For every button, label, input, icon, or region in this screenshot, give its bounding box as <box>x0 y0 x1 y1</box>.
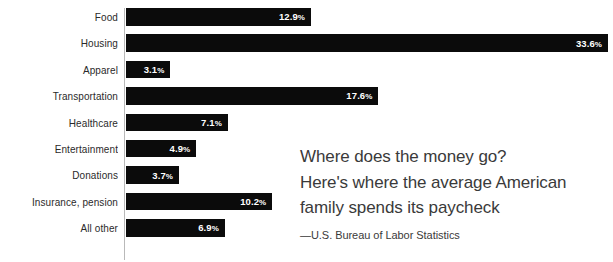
percent-sign: % <box>595 40 602 49</box>
bar-value-number: 17.6 <box>346 90 365 101</box>
bar: 33.6% <box>126 34 608 52</box>
bar-row: Transportation17.6% <box>0 87 613 113</box>
bar-track: 12.9% <box>126 8 311 26</box>
bar-value-label: 3.1% <box>144 64 171 75</box>
bar: 12.9% <box>126 8 311 26</box>
bar-value-number: 12.9 <box>279 11 298 22</box>
bar-track: 4.9% <box>126 140 196 158</box>
percent-sign: % <box>259 198 266 207</box>
category-label: Entertainment <box>0 142 118 156</box>
category-label: Insurance, pension <box>0 195 118 209</box>
category-label: Donations <box>0 168 118 182</box>
percent-sign: % <box>183 145 190 154</box>
bar-value-label: 33.6% <box>576 38 608 49</box>
percent-sign: % <box>365 92 372 101</box>
category-label: Apparel <box>0 63 118 77</box>
percent-sign: % <box>298 13 305 22</box>
headline-line: Here's where the average American <box>300 170 610 196</box>
bar-row: Housing33.6% <box>0 34 613 60</box>
bar: 4.9% <box>126 140 196 158</box>
category-label: All other <box>0 221 118 235</box>
percent-sign: % <box>212 224 219 233</box>
bar-value-label: 17.6% <box>346 90 378 101</box>
bar: 6.9% <box>126 219 225 237</box>
bar-row: Healthcare7.1% <box>0 114 613 140</box>
bar-value-label: 7.1% <box>201 117 228 128</box>
bar-value-number: 3.7 <box>152 170 166 181</box>
bar-value-label: 10.2% <box>240 196 272 207</box>
bar-track: 3.7% <box>126 166 179 184</box>
bar-value-number: 4.9 <box>170 143 184 154</box>
bar: 3.7% <box>126 166 179 184</box>
bar: 10.2% <box>126 193 272 211</box>
caption-block: Where does the money go?Here's where the… <box>300 144 610 242</box>
bar-track: 7.1% <box>126 114 228 132</box>
headline-line: Where does the money go? <box>300 144 610 170</box>
percent-sign: % <box>166 172 173 181</box>
bar-value-number: 6.9 <box>198 222 212 233</box>
bar: 3.1% <box>126 61 170 79</box>
category-label: Healthcare <box>0 116 118 130</box>
bar-track: 6.9% <box>126 219 225 237</box>
bar-row: Food12.9% <box>0 8 613 34</box>
category-label: Food <box>0 10 118 24</box>
caption-headline: Where does the money go?Here's where the… <box>300 144 610 221</box>
bar-value-number: 10.2 <box>240 196 259 207</box>
source-attribution: —U.S. Bureau of Labor Statistics <box>300 228 610 242</box>
bar-value-label: 6.9% <box>198 222 225 233</box>
bar-value-label: 12.9% <box>279 11 311 22</box>
bar: 7.1% <box>126 114 228 132</box>
bar-track: 10.2% <box>126 193 272 211</box>
bar-row: Apparel3.1% <box>0 61 613 87</box>
category-label: Transportation <box>0 89 118 103</box>
bar-value-number: 7.1 <box>201 117 215 128</box>
headline-line: family spends its paycheck <box>300 195 610 221</box>
bar-value-label: 3.7% <box>152 170 179 181</box>
bar-track: 33.6% <box>126 34 608 52</box>
bar-value-number: 3.1 <box>144 64 158 75</box>
category-label: Housing <box>0 36 118 50</box>
bar: 17.6% <box>126 87 378 105</box>
bar-value-number: 33.6 <box>576 38 595 49</box>
percent-sign: % <box>215 119 222 128</box>
spending-bar-chart: Food12.9%Housing33.6%Apparel3.1%Transpor… <box>0 0 613 262</box>
bar-value-label: 4.9% <box>170 143 197 154</box>
bar-track: 17.6% <box>126 87 378 105</box>
percent-sign: % <box>157 66 164 75</box>
bar-track: 3.1% <box>126 61 170 79</box>
